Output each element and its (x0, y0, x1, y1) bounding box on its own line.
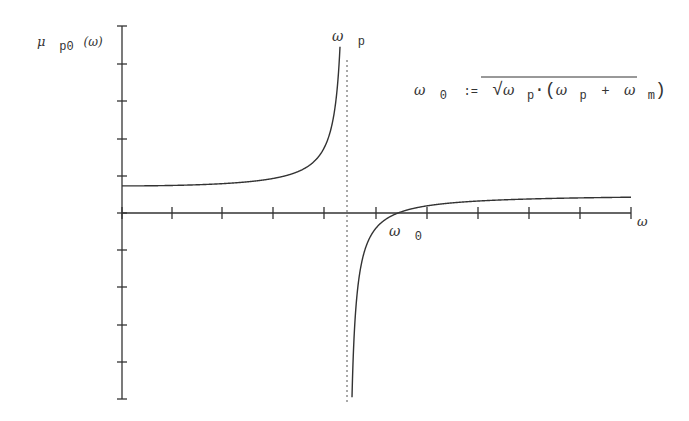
assign-operator: := (463, 85, 477, 99)
formula-subscript: p (580, 89, 587, 103)
y-label-argument: (ω) (83, 35, 102, 49)
plot-area (0, 0, 689, 421)
curve-lower-branch (122, 47, 340, 186)
sqrt-sign: √ (492, 80, 503, 100)
omega-symbol: ω (503, 82, 514, 98)
formula-paren-open: ·( (534, 80, 556, 100)
formula: ω 0 := √ω p·(ω p + ω m) (414, 80, 666, 100)
formula-subscript: p (527, 89, 534, 103)
omega-symbol: ω (624, 82, 635, 98)
omega-symbol: ω (414, 82, 425, 98)
formula-subscript: m (648, 89, 655, 103)
x-axis-label: ω (637, 214, 648, 229)
formula-subscript: 0 (440, 89, 447, 103)
y-axis-label: μ p0 (ω) (37, 34, 103, 50)
omega-symbol: ω (556, 82, 567, 98)
formula-paren-close: ) (655, 80, 666, 100)
omega-symbol: ω (389, 223, 400, 239)
pole-subscript: p (358, 35, 365, 49)
omega-symbol: ω (332, 28, 343, 44)
pole-label: ω p (332, 28, 365, 45)
y-label-subscript: p0 (59, 40, 73, 54)
mu-symbol: μ (37, 34, 45, 49)
zero-subscript: 0 (415, 230, 422, 244)
plus-operator: + (601, 83, 609, 99)
zero-label: ω 0 (389, 223, 422, 240)
